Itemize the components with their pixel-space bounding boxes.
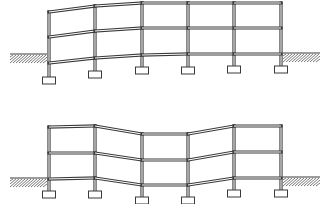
ground-hatch-left — [10, 54, 47, 63]
footing-3 — [136, 197, 149, 204]
beam-level-3-bay-4 — [188, 126, 234, 134]
beam-level-3-bay-2 — [95, 126, 142, 134]
beam-level-3-bay-2 — [95, 3, 142, 6]
ground-hatch-right — [283, 177, 320, 186]
frame-bottom-center-settlement — [10, 126, 320, 204]
footing-2 — [89, 191, 102, 198]
footing-6 — [275, 190, 288, 197]
beam-level-2-bay-2 — [95, 28, 142, 31]
footing-1 — [43, 77, 56, 84]
footing-2 — [89, 71, 102, 78]
frame-top-edge-settlement — [10, 3, 320, 84]
beam-level-3-bay-1 — [49, 6, 95, 12]
footing-1 — [43, 191, 56, 198]
beam-level-1-bay-1 — [49, 178, 95, 179]
footing-5 — [228, 190, 241, 197]
footing-4 — [182, 197, 195, 204]
footing-5 — [228, 66, 241, 73]
ground-hatch-left — [10, 178, 47, 187]
beam-level-1-bay-1 — [49, 58, 95, 63]
footing-4 — [182, 67, 195, 74]
beam-level-1-bay-2 — [95, 55, 142, 58]
beam-level-1-bay-4 — [188, 178, 234, 185]
beam-level-2-bay-4 — [188, 152, 234, 160]
beam-level-1-bay-3 — [142, 54, 188, 55]
beam-level-2-bay-1 — [49, 31, 95, 37]
footing-3 — [136, 67, 149, 74]
beam-level-3-bay-1 — [49, 126, 95, 127]
ground-hatch-right — [283, 53, 320, 62]
beam-level-2-bay-2 — [95, 153, 142, 160]
settlement-diagram — [0, 0, 332, 204]
footing-6 — [275, 66, 288, 73]
beam-level-1-bay-2 — [95, 178, 142, 185]
